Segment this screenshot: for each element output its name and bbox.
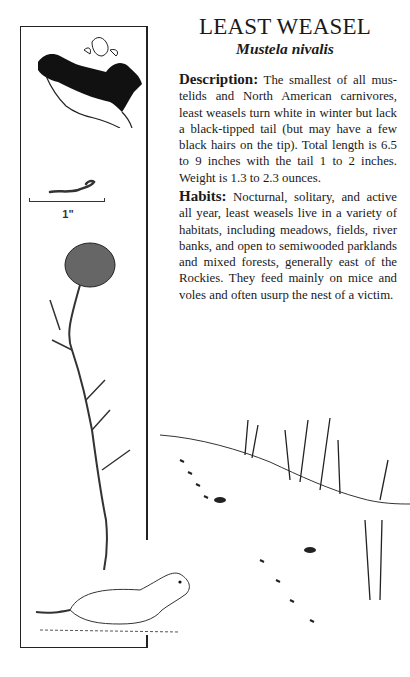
description-heading: Description: (179, 71, 258, 87)
twig-with-leaf-icon (30, 240, 140, 570)
range-map-icon (22, 28, 150, 128)
scale-label: 1" (58, 208, 78, 220)
scientific-name: Mustela nivalis (175, 40, 395, 58)
snow-scene-illustration-icon (160, 400, 410, 650)
habits-heading: Habits: (179, 188, 227, 204)
title-block: LEAST WEASEL Mustela nivalis (175, 14, 395, 58)
description-body: The smallest of all mus­telids and North… (179, 73, 397, 185)
habits-body: Nocturnal, solitary, and active all year… (179, 190, 397, 302)
page-title: LEAST WEASEL (175, 14, 395, 40)
habits-section: Habits: Nocturnal, solitary, and active … (179, 188, 397, 303)
description-section: Description: The smallest of all mus­tel… (179, 71, 397, 186)
scat-track-icon (48, 178, 128, 198)
scale-bar (29, 201, 105, 202)
